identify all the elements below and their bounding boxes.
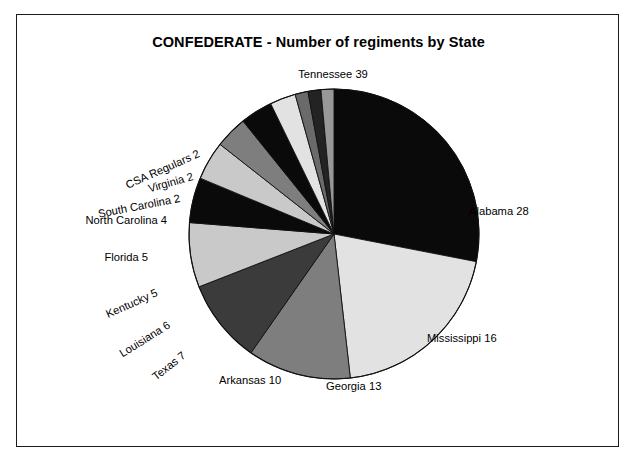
- slice-label: Alabama 28: [469, 205, 529, 217]
- slice-label: Mississippi 16: [427, 332, 497, 344]
- pie-slice[interactable]: [334, 89, 479, 262]
- slice-label: Florida 5: [104, 251, 148, 263]
- chart-frame: CONFEDERATE - Number of regiments by Sta…: [16, 14, 619, 447]
- slice-label: Georgia 13: [326, 380, 381, 392]
- slice-label: Arkansas 10: [219, 374, 281, 386]
- slice-label: Tennessee 39: [298, 68, 368, 80]
